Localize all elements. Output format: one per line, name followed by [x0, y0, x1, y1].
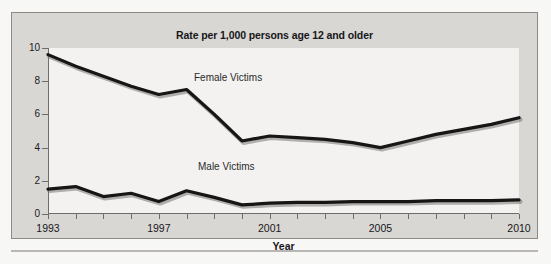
x-tick	[270, 214, 271, 219]
x-tick-label: 1997	[136, 222, 182, 234]
x-tick	[436, 214, 437, 219]
y-tick-label: 8	[16, 76, 40, 86]
y-tick-label: 2	[16, 176, 40, 186]
series-line-female-victims	[48, 55, 519, 148]
x-tick	[103, 214, 104, 219]
x-tick-label: 1993	[25, 222, 71, 234]
x-tick	[380, 214, 381, 219]
x-tick	[159, 214, 160, 219]
plot-area: 0246810 19931997200120052010 Female Vict…	[48, 48, 530, 216]
x-tick	[408, 214, 409, 219]
chart-card: Rate per 1,000 persons age 12 and older …	[19, 19, 530, 232]
x-tick	[214, 214, 215, 219]
chart-title: Rate per 1,000 persons age 12 and older	[19, 29, 530, 41]
x-tick	[187, 214, 188, 219]
x-tick	[519, 214, 520, 219]
x-tick	[491, 214, 492, 219]
x-tick-label: 2005	[357, 222, 403, 234]
series-lines	[48, 48, 519, 214]
x-tick	[464, 214, 465, 219]
y-tick-label: 4	[16, 143, 40, 153]
x-tick-label: 2010	[496, 222, 542, 234]
x-tick	[48, 214, 49, 219]
x-tick	[76, 214, 77, 219]
x-tick-label: 2001	[247, 222, 293, 234]
page-horizontal-rule	[11, 250, 538, 252]
y-tick-label: 10	[16, 43, 40, 53]
x-tick	[297, 214, 298, 219]
series-line-male-victims	[48, 187, 519, 205]
x-tick	[242, 214, 243, 219]
chart-figure: Rate per 1,000 persons age 12 and older …	[11, 12, 538, 239]
x-tick	[131, 214, 132, 219]
y-tick-label: 6	[16, 109, 40, 119]
x-tick	[325, 214, 326, 219]
series-label-male: Male Victims	[198, 161, 255, 172]
x-tick	[353, 214, 354, 219]
series-label-female: Female Victims	[194, 72, 262, 83]
y-tick-label: 0	[16, 209, 40, 219]
